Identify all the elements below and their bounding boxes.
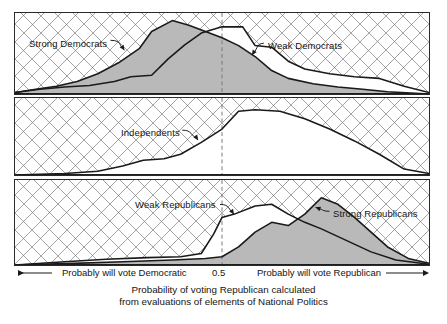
footer-partial-text <box>0 316 447 324</box>
chart-panel-independents: Independents <box>14 97 430 176</box>
series-label-strong-republicans: Strong Republicans <box>333 208 418 219</box>
axis-tick-label-midpoint: 0.5 <box>212 267 225 278</box>
series-label-weak-democrats: Weak Democrats <box>268 40 342 51</box>
chart-panel-republicans: Weak Republicans Strong Republicans <box>14 179 430 266</box>
series-label-strong-democrats: Strong Democrats <box>29 38 107 49</box>
x-axis-annotation-row: Probably will vote Democratic 0.5 Probab… <box>14 266 430 282</box>
series-label-weak-republicans: Weak Republicans <box>135 199 216 210</box>
axis-label-republican: Probably will vote Republican <box>257 267 381 278</box>
plot-area-republicans <box>15 180 429 265</box>
plot-area-independents <box>15 98 429 175</box>
series-label-independents: Independents <box>121 127 180 138</box>
caption-line-1: Probability of voting Republican calcula… <box>0 284 447 295</box>
plot-area-democrats <box>15 13 429 94</box>
label-leader-arrowhead <box>193 135 198 140</box>
axis-label-democratic: Probably will vote Democratic <box>62 267 187 278</box>
figure-voting-probability: Strong Democrats Weak Democrats Independ… <box>0 0 447 324</box>
chart-panel-democrats: Strong Democrats Weak Democrats <box>14 12 430 95</box>
caption-line-2: from evaluations of elements of National… <box>0 296 447 307</box>
